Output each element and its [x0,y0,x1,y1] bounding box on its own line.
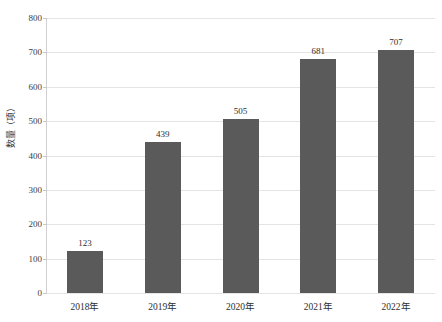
plot-area: 123439505681707 [46,18,435,293]
x-tick-label: 2019年 [148,299,177,313]
x-tick-label: 2018年 [70,299,99,313]
y-tick-mark [43,190,47,191]
bar[interactable] [145,142,181,293]
bar-value-label: 681 [312,46,326,56]
bar-value-label: 439 [156,129,170,139]
gridline [46,293,435,294]
y-tick-label: 0 [2,288,42,298]
bar[interactable] [300,59,336,293]
clipped-title-text [0,0,442,7]
y-tick-mark [43,18,47,19]
gridline [46,52,435,53]
bar[interactable] [223,119,259,293]
y-tick-mark [43,52,47,53]
bar-value-label: 505 [234,106,248,116]
y-tick-mark [43,224,47,225]
y-tick-label: 600 [2,82,42,92]
y-tick-label: 500 [2,116,42,126]
y-tick-label: 400 [2,151,42,161]
y-tick-label: 200 [2,219,42,229]
x-tick-label: 2020年 [226,299,255,313]
y-axis-ticks: 0100200300400500600700800 [0,18,42,294]
gridline [46,87,435,88]
x-tick-label: 2021年 [304,299,333,313]
bar[interactable] [67,251,103,293]
y-tick-label: 300 [2,185,42,195]
y-tick-mark [43,293,47,294]
y-tick-mark [43,156,47,157]
bar-value-label: 123 [78,238,92,248]
y-tick-mark [43,121,47,122]
y-tick-mark [43,87,47,88]
bar-value-label: 707 [389,37,403,47]
bar-chart: 数量（项） 0100200300400500600700800 12343950… [0,0,442,322]
y-tick-label: 800 [2,13,42,23]
bar[interactable] [378,50,414,293]
gridline [46,18,435,19]
y-tick-mark [43,259,47,260]
y-tick-label: 100 [2,254,42,264]
y-tick-label: 700 [2,47,42,57]
x-tick-label: 2022年 [382,299,411,313]
